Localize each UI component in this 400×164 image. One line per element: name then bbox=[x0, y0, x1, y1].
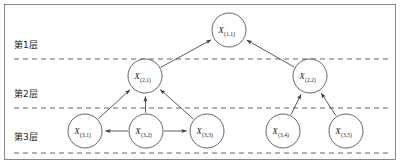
node-x-3-5: X(3,5) bbox=[329, 114, 363, 148]
hierarchical-graph-figure: X(1,1)X(2,1)X(2,2)X(3,1)X(3,2)X(3,3)X(3,… bbox=[0, 0, 400, 164]
edge-x35-x22 bbox=[321, 93, 336, 116]
edge-x21-x11 bbox=[161, 40, 211, 67]
node-circle-x-1-1 bbox=[212, 13, 246, 47]
edge-x31-x21 bbox=[98, 90, 130, 119]
node-x-3-2: X(3,2) bbox=[129, 114, 163, 148]
node-circle-x-3-3 bbox=[190, 114, 224, 148]
node-x-2-1: X(2,1) bbox=[128, 59, 162, 93]
layer-label-layer-3: 第3层 bbox=[14, 131, 38, 142]
node-circle-x-2-1 bbox=[128, 59, 162, 93]
graph-nodes: X(1,1)X(2,1)X(2,2)X(3,1)X(3,2)X(3,3)X(3,… bbox=[68, 13, 363, 148]
node-circle-x-3-1 bbox=[68, 114, 102, 148]
graph-canvas: X(1,1)X(2,1)X(2,2)X(3,1)X(3,2)X(3,3)X(3,… bbox=[0, 0, 400, 164]
edge-x34-x22 bbox=[291, 94, 301, 114]
layer-label-layer-1: 第1层 bbox=[14, 39, 38, 50]
layer-label-group: 第1层第2层第3层 bbox=[14, 39, 38, 142]
node-x-3-3: X(3,3) bbox=[190, 114, 224, 148]
node-circle-x-2-2 bbox=[293, 59, 327, 93]
node-x-2-2: X(2,2) bbox=[293, 59, 327, 93]
edge-x22-x11 bbox=[247, 40, 294, 67]
node-circle-x-3-5 bbox=[329, 114, 363, 148]
layer-label-layer-2: 第2层 bbox=[14, 88, 38, 99]
edge-x33-x21 bbox=[160, 90, 193, 119]
node-circle-x-3-2 bbox=[129, 114, 163, 148]
node-circle-x-3-4 bbox=[266, 114, 300, 148]
node-x-3-1: X(3,1) bbox=[68, 114, 102, 148]
node-x-3-4: X(3,4) bbox=[266, 114, 300, 148]
node-x-1-1: X(1,1) bbox=[212, 13, 246, 47]
